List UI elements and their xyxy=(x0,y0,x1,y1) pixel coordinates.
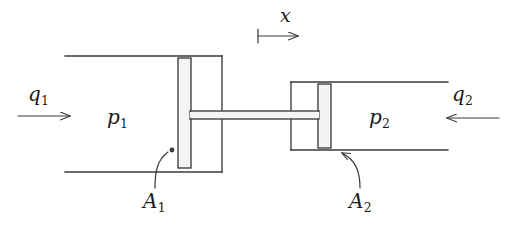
p2-pressure-label: p2 xyxy=(369,107,390,127)
right-piston-plate xyxy=(318,84,331,148)
x-displacement-label: x xyxy=(280,6,291,25)
hydraulic-piston-diagram: x q1 q2 p1 p2 A1 A2 xyxy=(0,0,516,236)
a2-area-label: A2 xyxy=(349,191,371,211)
left-piston-plate xyxy=(178,58,191,168)
a1-leader-dot xyxy=(170,148,175,153)
q1-flow-label: q1 xyxy=(28,84,49,104)
a2-leader-line xyxy=(342,153,360,188)
p1-pressure-label: p1 xyxy=(107,107,128,127)
a1-area-label: A1 xyxy=(143,191,165,211)
q2-flow-label: q2 xyxy=(452,84,473,104)
diagram-canvas xyxy=(0,0,516,236)
a1-leader-line xyxy=(155,152,168,188)
piston-connecting-rod xyxy=(190,111,319,119)
